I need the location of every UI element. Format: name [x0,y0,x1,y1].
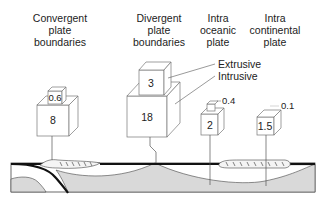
intra-continental-intrusive-value: 1.5 [258,120,273,132]
continental-crust [219,160,290,168]
divergent-leader [150,137,156,163]
magma-diagram: 8 0.6 3 18 0.4 2 0.1 1.5 [0,0,329,209]
divergent-boxes [127,62,180,137]
divergent-intrusive-value: 18 [141,111,153,123]
intra-continental-extrusive-value: 0.1 [281,100,294,111]
convergent-extrusive-value: 0.6 [48,92,61,103]
intra-oceanic-intrusive-value: 2 [207,119,213,131]
intra-oceanic-extrusive-value: 0.4 [222,95,235,106]
intra-oceanic-extrusive-box [207,104,215,111]
intrusive-leader [175,76,215,104]
convergent-intrusive-value: 8 [50,114,56,126]
cross-section [11,160,315,193]
divergent-extrusive-value: 3 [148,77,154,89]
extrusive-leader [168,64,215,78]
